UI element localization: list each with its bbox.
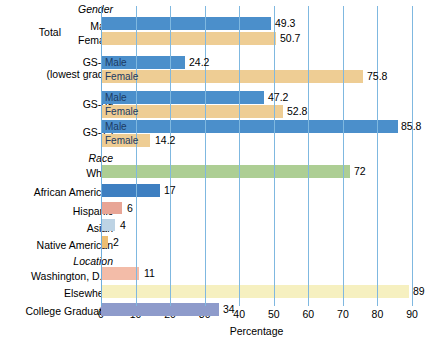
value-label-washington-dc: 11 — [144, 267, 155, 280]
inner-label-gs09-male: Male — [105, 91, 127, 104]
gridline-80 — [377, 6, 378, 306]
bar-hispanic — [101, 202, 122, 214]
row-label-hispanic: Hispanic — [0, 205, 113, 217]
bar-row-gs09-female: Female 52.8 — [101, 105, 412, 118]
group-label-gs01-line1: GS-01 — [0, 56, 113, 68]
value-label-gs09-male: 47.2 — [268, 91, 288, 104]
value-label-gs15-male: 85.8 — [401, 120, 421, 133]
value-label-asian: 4 — [120, 219, 126, 231]
row-label-african-american: African American — [0, 186, 113, 198]
x-axis-title: Percentage — [101, 325, 412, 337]
value-label-college-graduates: 34 — [223, 303, 235, 316]
value-label-native-american: 2 — [113, 236, 119, 248]
inner-label-gs15-male: Male — [105, 120, 127, 133]
xtick-70: 70 — [337, 308, 349, 320]
bar-elsewhere — [101, 285, 409, 298]
section-header-race: Race — [0, 152, 113, 164]
xtick-50: 50 — [268, 308, 280, 320]
gridline-50 — [274, 6, 275, 306]
value-label-gs09-female: 52.8 — [287, 105, 307, 118]
value-label-african-american: 17 — [164, 184, 176, 197]
bar-chart: Gender Total Male Female GS-01 (lowest g… — [0, 0, 435, 346]
value-label-elsewhere: 89 — [413, 285, 425, 298]
bar-row-white: 72 — [101, 165, 412, 178]
group-label-gs09: GS-09 — [0, 98, 113, 110]
gridline-30 — [205, 6, 206, 306]
gridline-20 — [170, 6, 171, 306]
bar-row-hispanic: 6 — [101, 202, 412, 214]
gridline-70 — [343, 6, 344, 306]
bar-row-african-american: 17 — [101, 184, 412, 197]
value-label-gs01-male: 24.2 — [189, 56, 209, 69]
bar-row-asian: 4 — [101, 219, 412, 231]
bar-row-gs01-male: Male 24.2 — [101, 56, 412, 69]
row-label-college-graduates: College Graduates — [0, 305, 113, 317]
plot-area: 49.3 50.7 Male 24.2 Female 75.8 Male 47.… — [101, 0, 412, 312]
bar-row-total-female: 50.7 — [101, 32, 412, 45]
bar-college-graduates — [101, 303, 219, 316]
bar-row-gs15-male: Male 85.8 — [101, 120, 412, 133]
row-label-white: White — [0, 167, 113, 179]
value-label-total-female: 50.7 — [280, 32, 300, 45]
bar-native-american — [101, 236, 108, 248]
row-label-asian: Asian — [0, 222, 113, 234]
row-label-washington-dc: Washington, D.C. — [0, 270, 113, 282]
value-label-gs01-female: 75.8 — [367, 70, 387, 83]
value-label-gs15-female: 14.2 — [155, 134, 175, 147]
gridline-10 — [136, 6, 137, 306]
value-label-hispanic: 6 — [127, 202, 133, 214]
bar-row-gs15-female: Female 14.2 — [101, 134, 412, 147]
inner-label-gs15-female: Female — [105, 134, 138, 147]
xtick-90: 90 — [406, 308, 418, 320]
bar-row-washington-dc: 11 — [101, 267, 412, 280]
inner-label-gs09-female: Female — [105, 105, 138, 118]
section-header-gender: Gender — [0, 3, 113, 15]
bar-total-female — [101, 32, 276, 45]
inner-label-gs01-male: Male — [105, 56, 127, 69]
inner-label-gs01-female: Female — [105, 70, 138, 83]
group-label-gs15: GS-15 — [0, 126, 113, 138]
gridline-40 — [239, 6, 240, 306]
value-label-total-male: 49.3 — [275, 17, 295, 30]
gridline-90 — [412, 6, 413, 306]
value-label-white: 72 — [354, 165, 366, 178]
bar-white — [101, 165, 350, 178]
xtick-40: 40 — [233, 308, 245, 320]
bar-gs15-male — [101, 120, 398, 133]
bar-row-gs09-male: Male 47.2 — [101, 91, 412, 104]
bar-row-elsewhere: 89 — [101, 285, 412, 298]
bar-total-male — [101, 17, 271, 30]
xtick-60: 60 — [302, 308, 314, 320]
group-label-gs01-line2: (lowest grade) — [0, 68, 113, 80]
gridline-60 — [308, 6, 309, 306]
bar-row-total-male: 49.3 — [101, 17, 412, 30]
bar-african-american — [101, 184, 160, 197]
bar-row-native-american: 2 — [101, 236, 412, 248]
row-label-total-female: Female — [0, 34, 113, 46]
row-label-native-american: Native American — [0, 239, 113, 251]
bar-asian — [101, 219, 115, 231]
row-label-elsewhere: Elsewhere — [0, 287, 113, 299]
row-label-total-male: Male — [0, 20, 113, 32]
bar-row-gs01-female: Female 75.8 — [101, 70, 412, 83]
xtick-80: 80 — [372, 308, 384, 320]
bar-washington-dc — [101, 267, 139, 280]
gridline-0 — [101, 6, 102, 306]
bar-gs01-female — [101, 70, 363, 83]
section-header-location: Location — [0, 255, 113, 267]
bar-row-college-graduates: 34 — [101, 303, 412, 316]
